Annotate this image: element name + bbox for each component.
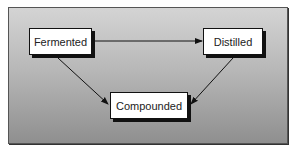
node-label: Distilled bbox=[214, 36, 253, 48]
node-fermented: Fermented bbox=[29, 28, 92, 55]
node-label: Compounded bbox=[116, 100, 182, 112]
diagram-edges bbox=[0, 0, 292, 149]
node-label: Fermented bbox=[34, 36, 87, 48]
node-distilled: Distilled bbox=[203, 28, 263, 55]
edge-fermented-to-compounded bbox=[58, 58, 108, 104]
node-compounded: Compounded bbox=[110, 92, 188, 119]
edge-distilled-to-compounded bbox=[191, 58, 233, 104]
